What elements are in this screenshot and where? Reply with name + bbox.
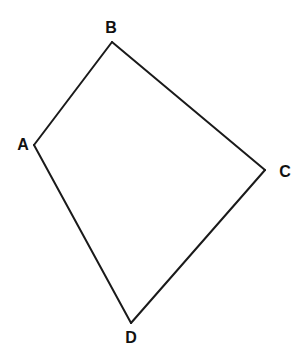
edge-c-d xyxy=(131,170,265,323)
quadrilateral-diagram: A B C D xyxy=(0,0,303,357)
vertex-label-c: C xyxy=(279,163,291,180)
edge-a-b xyxy=(34,42,112,145)
vertex-label-d: D xyxy=(125,329,137,346)
edge-d-a xyxy=(34,145,131,323)
vertex-label-a: A xyxy=(17,136,29,153)
edge-b-c xyxy=(112,42,265,170)
edges xyxy=(34,42,265,323)
vertex-label-b: B xyxy=(105,19,117,36)
